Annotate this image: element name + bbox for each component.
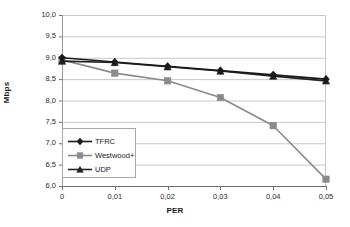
marker-square [112, 70, 118, 76]
legend-label: TFRC [95, 137, 115, 146]
legend-item-udp[interactable]: UDP [67, 162, 111, 176]
legend-swatch-square-icon [67, 150, 93, 161]
marker-square [164, 78, 170, 84]
legend-swatch-diamond-icon [67, 136, 93, 147]
marker-square [77, 152, 83, 158]
marker-diamond [77, 138, 83, 145]
plot-area [0, 0, 350, 227]
marker-square [217, 94, 223, 100]
chart-container: Mbps PER 6,06,57,07,58,08,59,09,510,0 00… [0, 0, 350, 227]
legend-item-tfrc[interactable]: TFRC [67, 134, 115, 148]
marker-square [270, 123, 276, 129]
marker-square [323, 176, 329, 182]
legend-item-westwood-[interactable]: Westwood+ [67, 148, 134, 162]
legend-label: Westwood+ [95, 151, 134, 160]
legend: TFRCWestwood+UDP [62, 128, 136, 178]
legend-swatch-triangle-icon [67, 164, 93, 175]
legend-label: UDP [95, 165, 111, 174]
